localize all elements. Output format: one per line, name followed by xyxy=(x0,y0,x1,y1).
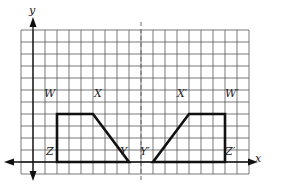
vertex-label-z: Z xyxy=(45,145,54,158)
vertex-label-y-prime: Y′ xyxy=(140,145,150,158)
x-axis-arrow-left-icon xyxy=(4,159,14,166)
vertex-label-z-prime: Z′ xyxy=(224,145,236,158)
grid xyxy=(21,30,249,174)
vertex-label-y: Y xyxy=(120,145,129,158)
y-axis-arrow-down-icon xyxy=(30,171,37,181)
vertex-label-w-prime: W′ xyxy=(225,87,239,100)
x-axis-label: x xyxy=(255,152,262,165)
coordinate-diagram: x y W X Y Z X′ W′ Y′ Z′ xyxy=(0,0,283,184)
y-axis-label: y xyxy=(28,4,36,17)
vertex-label-x: X xyxy=(93,87,103,100)
y-axis-arrow-up-icon xyxy=(30,17,37,27)
vertex-label-x-prime: X′ xyxy=(176,87,188,100)
vertex-label-w: W xyxy=(44,87,57,100)
